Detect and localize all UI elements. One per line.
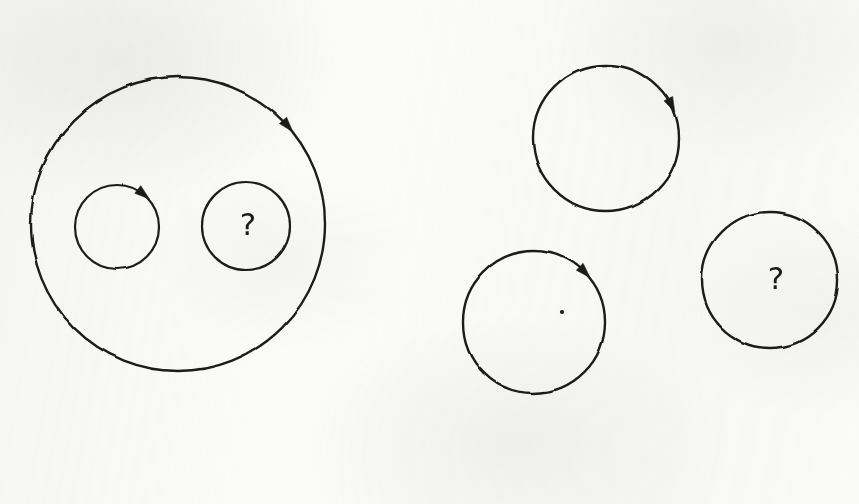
question-mark-label-left-panel: ? <box>240 209 256 240</box>
question-mark-label-right-panel: ? <box>768 263 784 294</box>
figure-canvas: ? ? <box>0 0 859 504</box>
center-dot-marker <box>560 310 564 314</box>
diagram-artwork <box>0 0 859 504</box>
top-circle <box>533 65 679 211</box>
clockwise-arrowhead-icon <box>135 186 150 199</box>
clockwise-arrowhead-icon <box>664 96 675 112</box>
left-panel-group <box>31 77 325 371</box>
right-panel-group <box>463 65 838 393</box>
